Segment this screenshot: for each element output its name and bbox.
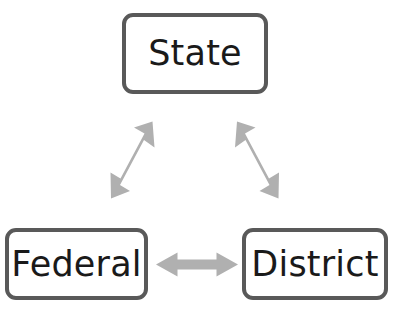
node-state-label: State xyxy=(148,36,242,71)
diagram-canvas: State Federal District xyxy=(0,0,402,311)
node-district-label: District xyxy=(251,247,378,282)
connector-state-district-arrow-icon xyxy=(235,122,279,199)
connector-federal-district-arrow-icon xyxy=(156,253,238,277)
node-federal-label: Federal xyxy=(11,247,141,282)
node-federal: Federal xyxy=(5,228,148,300)
node-state: State xyxy=(122,13,268,94)
node-district: District xyxy=(242,228,388,300)
connector-federal-state-arrow-icon xyxy=(111,122,155,199)
